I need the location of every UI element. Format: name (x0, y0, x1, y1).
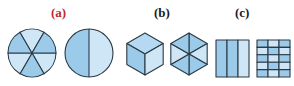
cell (279, 47, 290, 54)
cell (268, 40, 279, 47)
circle-halves (65, 29, 113, 77)
cell (279, 70, 290, 77)
cell (227, 40, 238, 77)
cell (268, 55, 279, 62)
rectangle-thirds (216, 40, 249, 77)
half-left (65, 29, 89, 77)
circle-sixths (8, 29, 56, 77)
fraction-shapes-figure (0, 0, 294, 86)
rectangle-fifteenths (257, 40, 290, 77)
cell (257, 40, 268, 47)
cell (257, 62, 268, 69)
cell (279, 40, 290, 47)
cell (268, 47, 279, 54)
cell (268, 70, 279, 77)
half-right (89, 29, 113, 77)
cell (257, 47, 268, 54)
cell (257, 70, 268, 77)
cell (238, 40, 249, 77)
hexagon-thirds-cube (127, 33, 163, 75)
cell (279, 62, 290, 69)
cell (216, 40, 227, 77)
hexagon-sixths (171, 33, 207, 75)
cell (257, 55, 268, 62)
cell (279, 55, 290, 62)
cell (268, 62, 279, 69)
